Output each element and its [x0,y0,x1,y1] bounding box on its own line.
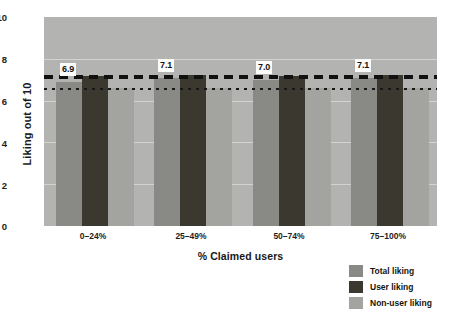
y-tick-2: 2 [0,181,7,191]
bar-total-liking[interactable] [253,80,279,226]
bar-non-user-liking[interactable] [403,88,429,226]
bar-total-liking[interactable] [56,82,82,226]
reference-line-dotted-non-user-liking [44,88,437,90]
legend-label-total-liking: Total liking [370,266,414,276]
bar-non-user-liking[interactable] [108,88,134,226]
bar-user-liking[interactable] [377,75,403,227]
value-label-0-24: 6.9 [60,63,76,76]
y-tick-0: 0 [0,222,7,232]
y-tick-4: 4 [0,139,7,149]
value-label-25-49: 7.1 [158,59,174,72]
bar-user-liking[interactable] [82,76,108,227]
bar-group-0-24 [44,17,142,226]
bar-non-user-liking[interactable] [305,88,331,226]
legend: Total liking User liking Non-user liking [349,263,457,311]
bar-group-75-100 [339,17,437,226]
y-axis-title: Liking out of 10 [21,39,33,209]
legend-swatch-total-liking [349,265,363,277]
value-label-75-100: 7.1 [355,59,371,72]
legend-label-user-liking: User liking [370,282,413,292]
bar-total-liking[interactable] [351,78,377,226]
y-tick-8: 8 [0,55,7,65]
legend-label-non-user-liking: Non-user liking [370,298,432,308]
bar-user-liking[interactable] [180,75,206,227]
bar-group-50-74 [241,17,339,226]
y-tick-6: 6 [0,97,7,107]
y-tick-10: 10 [0,13,7,23]
legend-item-total-liking[interactable]: Total liking [349,263,457,278]
bar-group-25-49 [142,17,240,226]
x-axis-title: % Claimed users [44,250,437,262]
x-tick-75-100: 75–100% [344,231,432,241]
bar-total-liking[interactable] [154,78,180,226]
legend-item-non-user-liking[interactable]: Non-user liking [349,295,457,310]
plot-area: 6.9 7.1 7.0 7.1 [44,17,437,226]
chart-figure: Liking out of 10 10 8 6 4 2 0 [0,0,458,315]
reference-line-dashed-user-liking [44,75,437,79]
x-tick-0-24: 0–24% [49,231,137,241]
bar-user-liking[interactable] [279,76,305,227]
x-tick-50-74: 50–74% [245,231,333,241]
x-tick-25-49: 25–49% [147,231,235,241]
legend-item-user-liking[interactable]: User liking [349,279,457,294]
bar-non-user-liking[interactable] [206,88,232,226]
legend-swatch-user-liking [349,281,363,293]
legend-swatch-non-user-liking [349,297,363,309]
value-label-50-74: 7.0 [256,61,272,74]
